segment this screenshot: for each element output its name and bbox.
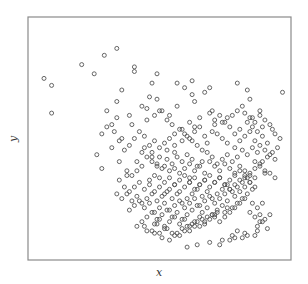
data-point	[170, 123, 174, 127]
data-point	[213, 118, 217, 122]
data-point	[245, 120, 249, 124]
data-point	[198, 125, 202, 129]
data-point	[248, 116, 252, 120]
data-point	[170, 231, 174, 235]
data-point	[260, 125, 264, 129]
data-point	[163, 164, 167, 168]
data-point	[170, 162, 174, 166]
data-point	[178, 127, 182, 131]
data-point	[203, 134, 207, 138]
data-point	[210, 155, 214, 159]
data-point	[145, 107, 149, 111]
data-point	[253, 120, 257, 124]
data-point	[180, 201, 184, 205]
data-point	[145, 155, 149, 159]
data-point	[173, 183, 177, 187]
data-point	[193, 100, 197, 104]
data-point	[105, 125, 109, 129]
data-point	[112, 130, 116, 134]
data-point	[173, 167, 177, 171]
data-point	[200, 148, 204, 152]
data-point	[235, 109, 239, 113]
data-point	[153, 190, 157, 194]
data-point	[178, 199, 182, 203]
data-point	[243, 231, 247, 235]
data-point	[168, 220, 172, 224]
data-point	[173, 234, 177, 238]
data-point	[190, 79, 194, 83]
data-point	[233, 183, 237, 187]
data-point	[115, 46, 119, 50]
data-point	[188, 176, 192, 180]
data-point	[253, 215, 257, 219]
data-point	[260, 201, 264, 205]
data-point	[198, 224, 202, 228]
data-point	[137, 180, 141, 184]
data-point	[183, 167, 187, 171]
data-point	[80, 63, 84, 67]
data-point	[160, 194, 164, 198]
data-point	[218, 113, 222, 117]
data-point	[100, 167, 104, 171]
data-point	[265, 155, 269, 159]
data-point	[218, 176, 222, 180]
data-point	[160, 236, 164, 240]
data-point	[273, 132, 277, 136]
points-layer	[42, 46, 285, 249]
data-point	[225, 206, 229, 210]
data-point	[255, 150, 259, 154]
data-point	[145, 215, 149, 219]
data-point	[233, 194, 237, 198]
data-point	[253, 139, 257, 143]
data-point	[163, 192, 167, 196]
data-point	[208, 174, 212, 178]
data-point	[230, 160, 234, 164]
data-point	[175, 231, 179, 235]
data-point	[215, 132, 219, 136]
data-point	[238, 190, 242, 194]
data-point	[205, 206, 209, 210]
data-point	[150, 192, 154, 196]
data-point	[135, 160, 139, 164]
data-point	[213, 123, 217, 127]
data-point	[140, 201, 144, 205]
data-point	[268, 123, 272, 127]
data-point	[208, 217, 212, 221]
data-point	[117, 178, 121, 182]
data-point	[132, 137, 136, 141]
data-point	[268, 171, 272, 175]
data-point	[235, 185, 239, 189]
data-point	[150, 150, 154, 154]
y-axis-label: y	[7, 135, 20, 143]
data-point	[130, 174, 134, 178]
data-point	[175, 104, 179, 108]
data-point	[228, 238, 232, 242]
data-point	[155, 199, 159, 203]
data-point	[223, 162, 227, 166]
data-point	[245, 176, 249, 180]
data-point	[183, 217, 187, 221]
data-point	[225, 183, 229, 187]
data-point	[253, 185, 257, 189]
data-point	[148, 183, 152, 187]
data-point	[193, 176, 197, 180]
data-point	[223, 210, 227, 214]
data-point	[140, 164, 144, 168]
data-point	[120, 88, 124, 92]
data-point	[158, 176, 162, 180]
data-point	[228, 187, 232, 191]
x-axis-label: x	[156, 266, 163, 279]
data-point	[183, 206, 187, 210]
data-point	[223, 192, 227, 196]
data-point	[153, 139, 157, 143]
data-point	[92, 72, 96, 76]
data-point	[175, 81, 179, 85]
data-point	[102, 53, 106, 57]
data-point	[188, 201, 192, 205]
data-point	[163, 180, 167, 184]
data-point	[200, 194, 204, 198]
data-point	[250, 146, 254, 150]
data-point	[258, 113, 262, 117]
data-point	[198, 183, 202, 187]
data-point	[117, 160, 121, 164]
